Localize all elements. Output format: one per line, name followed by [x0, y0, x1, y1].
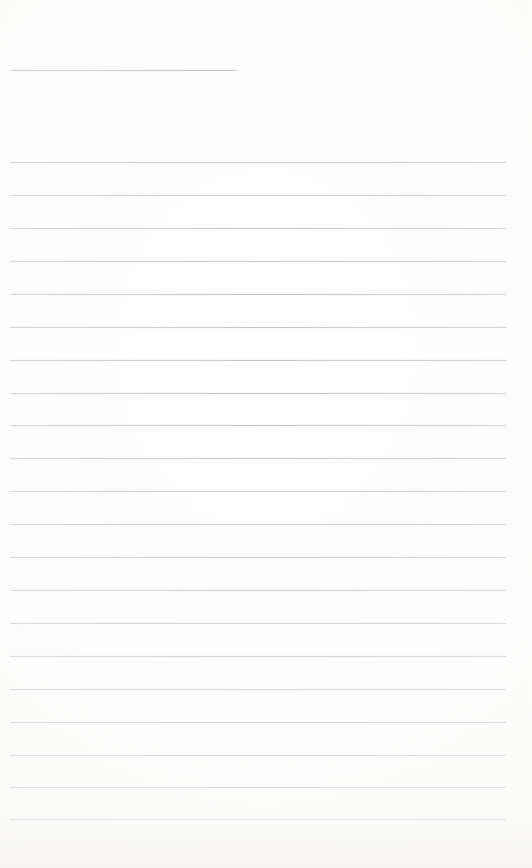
rule-line-20 — [10, 787, 506, 788]
rule-line-14 — [10, 590, 506, 591]
rule-line-12 — [10, 524, 506, 525]
scanned-page — [0, 0, 532, 868]
rule-line-16 — [10, 656, 506, 657]
rule-line-21 — [10, 819, 506, 820]
rule-line-15 — [10, 623, 506, 624]
rule-line-19 — [10, 755, 506, 756]
paper-sheet — [0, 0, 532, 868]
rule-line-18 — [10, 722, 506, 723]
rule-line-7 — [10, 360, 506, 361]
rule-line-6 — [10, 327, 506, 328]
rule-line-13 — [10, 557, 506, 558]
rule-line-10 — [10, 458, 506, 459]
rule-line-9 — [10, 425, 506, 426]
rule-line-2 — [10, 195, 506, 196]
rule-line-8 — [10, 393, 506, 394]
rule-line-4 — [10, 261, 506, 262]
rule-line-3 — [10, 228, 506, 229]
rule-line-17 — [10, 689, 506, 690]
rule-line-5 — [10, 294, 506, 295]
header-rule — [10, 70, 237, 71]
rule-line-1 — [10, 162, 506, 163]
rule-line-11 — [10, 491, 506, 492]
